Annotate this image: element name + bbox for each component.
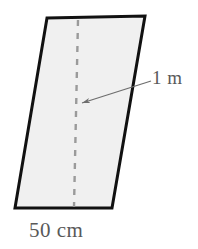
geometry-figure: 1 m 50 cm	[0, 0, 198, 249]
parallelogram-shape	[15, 16, 145, 208]
figure-canvas	[0, 0, 198, 249]
height-measurement-label: 1 m	[152, 68, 183, 87]
base-measurement-label: 50 cm	[29, 220, 83, 241]
